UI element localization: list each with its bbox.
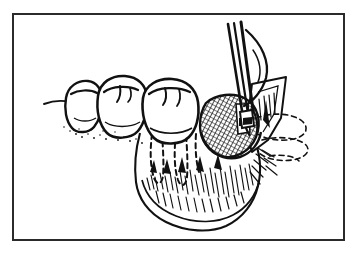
illustration-page	[0, 0, 358, 257]
figure-frame	[12, 13, 345, 241]
